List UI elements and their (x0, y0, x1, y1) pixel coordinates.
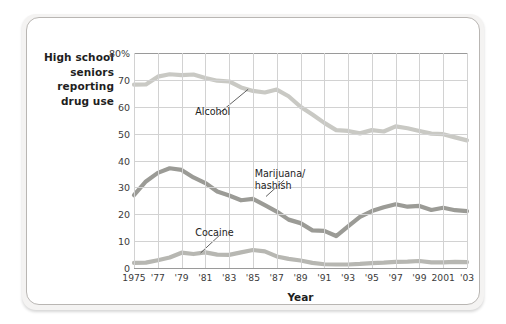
series-label-cocaine: Cocaine (195, 227, 233, 239)
x-tick-label: '03 (460, 272, 474, 283)
x-tick-label: '93 (341, 272, 355, 283)
x-tick-label: '91 (317, 272, 331, 283)
x-tick-label: '83 (222, 272, 236, 283)
grid-lines (134, 53, 467, 268)
x-axis-title: Year (134, 291, 467, 303)
series-label-line: Marijuana/ (255, 168, 306, 180)
gridline-vertical (182, 53, 183, 268)
chart-figure: High school seniors reporting drug use 0… (0, 0, 506, 324)
gridline-vertical (467, 53, 468, 268)
series-label-alcohol: Alcohol (195, 106, 230, 118)
x-axis-tick-labels: 1975'77'79'81'83'85'87'89'91'93'95'97'99… (134, 272, 467, 288)
y-tick-label: 30 (96, 182, 130, 193)
gridline-vertical (134, 53, 135, 268)
x-tick-label: '89 (293, 272, 307, 283)
y-tick-label: 60 (96, 101, 130, 112)
x-tick-label: 2001 (432, 272, 455, 283)
gridline-vertical (253, 53, 254, 268)
gridline-vertical (419, 53, 420, 268)
y-tick-label: 40 (96, 155, 130, 166)
gridline-vertical (443, 53, 444, 268)
x-tick-label: '87 (270, 272, 284, 283)
gridline-vertical (324, 53, 325, 268)
y-tick-label: 50 (96, 128, 130, 139)
gridline-vertical (277, 53, 278, 268)
series-label-marijuana: Marijuana/hashish (255, 168, 306, 191)
gridline-vertical (158, 53, 159, 268)
gridline-vertical (348, 53, 349, 268)
plot-area: AlcoholMarijuana/hashishCocaine (134, 53, 467, 268)
x-tick-label: '97 (389, 272, 403, 283)
x-tick-label: '77 (151, 272, 165, 283)
x-tick-label: '81 (198, 272, 212, 283)
x-tick-label: '79 (174, 272, 188, 283)
gridline-vertical (301, 53, 302, 268)
x-tick-label: '95 (365, 272, 379, 283)
x-tick-label: 1975 (122, 272, 145, 283)
y-tick-label: 80% (96, 48, 130, 59)
y-tick-label: 20 (96, 209, 130, 220)
gridline-vertical (372, 53, 373, 268)
gridline-vertical (396, 53, 397, 268)
series-label-line: hashish (255, 180, 306, 192)
y-tick-label: 70 (96, 74, 130, 85)
x-tick-label: '99 (412, 272, 426, 283)
y-axis-tick-labels: 01020304050607080% (96, 53, 130, 268)
x-tick-label: '85 (246, 272, 260, 283)
y-tick-label: 10 (96, 236, 130, 247)
gridline-horizontal (134, 268, 467, 269)
